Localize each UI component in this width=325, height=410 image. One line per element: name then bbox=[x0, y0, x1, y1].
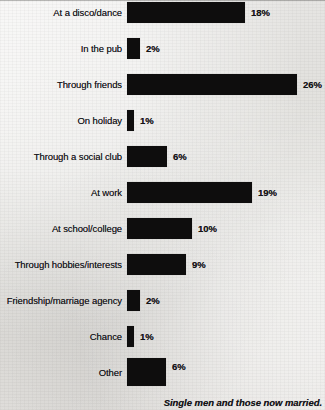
bar-group: 19% bbox=[127, 174, 277, 210]
chart-row: In the pub 2% bbox=[0, 30, 325, 66]
chart-row: At work 19% bbox=[0, 174, 325, 210]
category-label: At a disco/dance bbox=[0, 0, 122, 30]
chart-row: Chance 1% bbox=[0, 318, 325, 354]
chart-footnote: Single men and those now married. bbox=[164, 397, 322, 408]
horizontal-bar-chart: At a disco/dance 18% In the pub 2% Throu… bbox=[0, 0, 325, 410]
bar bbox=[127, 74, 297, 95]
value-label: 10% bbox=[198, 223, 217, 234]
value-label: 26% bbox=[303, 79, 322, 90]
chart-row: On holiday 1% bbox=[0, 102, 325, 138]
chart-row: Other 6% bbox=[0, 354, 325, 390]
chart-row: Friendship/marriage agency 2% bbox=[0, 282, 325, 318]
value-label: 2% bbox=[146, 295, 160, 306]
category-label: Through hobbies/interests bbox=[0, 246, 122, 282]
value-label: 6% bbox=[173, 151, 187, 162]
value-label: 1% bbox=[140, 115, 154, 126]
bar-group: 6% bbox=[127, 138, 187, 174]
bar-group: 2% bbox=[127, 282, 160, 318]
value-label: 6% bbox=[172, 361, 186, 372]
bar-group: 2% bbox=[127, 30, 160, 66]
bar bbox=[127, 218, 192, 239]
chart-row: At a disco/dance 18% bbox=[0, 0, 325, 30]
chart-row: Through a social club 6% bbox=[0, 138, 325, 174]
bar-group: 1% bbox=[127, 102, 154, 138]
bar bbox=[127, 2, 245, 23]
bar bbox=[127, 38, 140, 59]
category-label: In the pub bbox=[0, 30, 122, 66]
category-label: Chance bbox=[0, 318, 122, 354]
value-label: 9% bbox=[192, 259, 206, 270]
bar bbox=[127, 254, 186, 275]
bar-group: 18% bbox=[127, 0, 270, 30]
bar-group: 10% bbox=[127, 210, 217, 246]
value-label: 1% bbox=[140, 331, 154, 342]
bar-group: 26% bbox=[127, 66, 322, 102]
category-label: Friendship/marriage agency bbox=[0, 282, 122, 318]
category-label: Other bbox=[0, 354, 122, 390]
bar bbox=[127, 182, 252, 203]
bar-group: 9% bbox=[127, 246, 206, 282]
bar bbox=[127, 290, 140, 311]
category-label: At school/college bbox=[0, 210, 122, 246]
bar bbox=[127, 146, 167, 167]
chart-row: Through friends 26% bbox=[0, 66, 325, 102]
bar-group: 6% bbox=[127, 354, 186, 390]
bar bbox=[127, 326, 134, 347]
bar bbox=[127, 110, 134, 131]
category-label: At work bbox=[0, 174, 122, 210]
bar bbox=[127, 358, 166, 386]
bar-group: 1% bbox=[127, 318, 154, 354]
value-label: 19% bbox=[258, 187, 277, 198]
chart-row: At school/college 10% bbox=[0, 210, 325, 246]
value-label: 2% bbox=[146, 43, 160, 54]
chart-row: Through hobbies/interests 9% bbox=[0, 246, 325, 282]
category-label: On holiday bbox=[0, 102, 122, 138]
category-label: Through friends bbox=[0, 66, 122, 102]
value-label: 18% bbox=[251, 7, 270, 18]
category-label: Through a social club bbox=[0, 138, 122, 174]
